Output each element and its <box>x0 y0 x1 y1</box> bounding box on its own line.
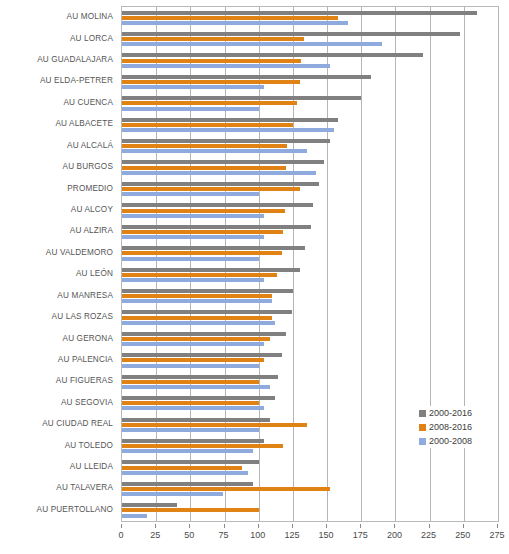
x-tick <box>121 524 122 528</box>
bar-2 <box>122 492 223 496</box>
bar-row <box>122 7 498 28</box>
x-tick-label: 150 <box>319 530 334 540</box>
bar-0 <box>122 310 292 314</box>
bar-row <box>122 264 498 285</box>
bar-2 <box>122 321 275 325</box>
bar-1 <box>122 294 272 298</box>
bar-row <box>122 457 498 478</box>
category-label: AU VALDEMORO <box>0 242 117 263</box>
category-label: AU LEÓN <box>0 263 117 284</box>
category-label: AU PALENCIA <box>0 349 117 370</box>
bar-1 <box>122 423 307 427</box>
bar-1 <box>122 487 330 491</box>
x-tick-label: 75 <box>219 530 229 540</box>
legend-item[interactable]: 2008-2016 <box>419 422 472 432</box>
bar-1 <box>122 59 301 63</box>
x-tick <box>394 524 395 528</box>
bar-row <box>122 328 498 349</box>
bar-1 <box>122 37 304 41</box>
bar-2 <box>122 471 248 475</box>
bar-2 <box>122 449 253 453</box>
category-axis-labels: AU MOLINAAU LORCAAU GUADALAJARAAU ELDA-P… <box>0 6 117 520</box>
x-tick-label: 250 <box>455 530 470 540</box>
bar-2 <box>122 364 259 368</box>
bar-0 <box>122 289 293 293</box>
bar-row <box>122 500 498 521</box>
bar-0 <box>122 353 282 357</box>
x-tick <box>189 524 190 528</box>
bar-0 <box>122 11 477 15</box>
category-label: AU ELDA-PETRER <box>0 70 117 91</box>
bar-row <box>122 28 498 49</box>
legend-label: 2000-2008 <box>429 436 472 446</box>
bar-1 <box>122 144 287 148</box>
bar-row <box>122 221 498 242</box>
x-tick-label: 200 <box>387 530 402 540</box>
category-label: PROMEDIO <box>0 177 117 198</box>
category-label: AU ALZIRA <box>0 220 117 241</box>
category-label: AU LLEIDA <box>0 456 117 477</box>
bar-2 <box>122 385 270 389</box>
bar-2 <box>122 128 334 132</box>
bar-2 <box>122 299 272 303</box>
x-tick-label: 25 <box>150 530 160 540</box>
legend-item[interactable]: 2000-2016 <box>419 408 472 418</box>
x-tick-label: 225 <box>421 530 436 540</box>
x-tick <box>292 524 293 528</box>
x-tick <box>360 524 361 528</box>
category-label: AU MANRESA <box>0 284 117 305</box>
bar-2 <box>122 21 348 25</box>
bar-1 <box>122 166 286 170</box>
bar-2 <box>122 514 147 518</box>
bar-1 <box>122 123 293 127</box>
category-label: AU TALAVERA <box>0 477 117 498</box>
category-label: AU GUADALAJARA <box>0 49 117 70</box>
bar-row <box>122 285 498 306</box>
bar-1 <box>122 358 264 362</box>
x-tick <box>258 524 259 528</box>
bar-row <box>122 307 498 328</box>
x-tick-label: 50 <box>184 530 194 540</box>
bar-2 <box>122 85 264 89</box>
category-label: AU TOLEDO <box>0 434 117 455</box>
bar-row <box>122 371 498 392</box>
bar-2 <box>122 278 264 282</box>
legend-label: 2000-2016 <box>429 408 472 418</box>
bar-2 <box>122 64 330 68</box>
category-label: AU LAS ROZAS <box>0 306 117 327</box>
x-axis: 0255075100125150175200225250275 <box>121 524 497 548</box>
bar-1 <box>122 337 270 341</box>
bar-0 <box>122 246 305 250</box>
bar-1 <box>122 230 283 234</box>
x-tick <box>497 524 498 528</box>
bar-1 <box>122 380 259 384</box>
chart-legend: 2000-20162008-20162000-2008 <box>418 406 474 448</box>
bar-1 <box>122 466 242 470</box>
x-tick <box>155 524 156 528</box>
category-label: AU FIGUERAS <box>0 370 117 391</box>
x-tick <box>429 524 430 528</box>
bar-0 <box>122 75 371 79</box>
bar-row <box>122 350 498 371</box>
x-tick <box>463 524 464 528</box>
bar-2 <box>122 192 259 196</box>
bar-1 <box>122 316 272 320</box>
bar-2 <box>122 107 259 111</box>
bar-1 <box>122 80 300 84</box>
legend-swatch-icon <box>419 424 426 431</box>
bar-0 <box>122 482 253 486</box>
x-tick-label: 275 <box>489 530 504 540</box>
bar-row <box>122 71 498 92</box>
bar-0 <box>122 203 313 207</box>
horizontal-bar-chart: AU MOLINAAU LORCAAU GUADALAJARAAU ELDA-P… <box>0 0 509 554</box>
bar-0 <box>122 225 311 229</box>
bar-2 <box>122 406 264 410</box>
x-tick-label: 100 <box>250 530 265 540</box>
bar-row <box>122 50 498 71</box>
bar-row <box>122 93 498 114</box>
legend-item[interactable]: 2000-2008 <box>419 436 472 446</box>
category-label: AU MOLINA <box>0 6 117 27</box>
bar-0 <box>122 418 270 422</box>
category-label: AU SEGOVIA <box>0 392 117 413</box>
bar-0 <box>122 53 423 57</box>
